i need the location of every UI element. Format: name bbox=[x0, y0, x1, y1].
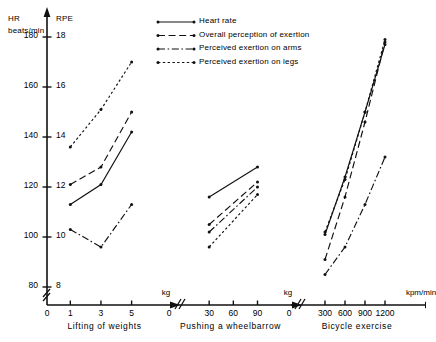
legend-marker-start-legs bbox=[157, 61, 160, 64]
legend-label-hr: Heart rate bbox=[199, 16, 237, 25]
series-line-p1-long-dash bbox=[209, 182, 257, 225]
x-tick-label-2-300: 300 bbox=[318, 308, 332, 318]
x-tick-label-1-60: 60 bbox=[229, 308, 238, 318]
data-point-p0-dotted-1 bbox=[99, 108, 102, 111]
data-point-p1-dash-dot-0 bbox=[208, 231, 211, 234]
y-tick-label-hr-120: 120 bbox=[24, 180, 38, 190]
y-tick-label-rpe-8: 8 bbox=[56, 280, 61, 290]
panel-caption-2: Bicycle exercise bbox=[322, 321, 393, 331]
series-line-p0-dotted bbox=[70, 62, 131, 147]
data-point-p2-dotted-0 bbox=[324, 231, 327, 234]
x-tick-label-2-900: 900 bbox=[358, 308, 372, 318]
data-point-p2-dash-dot-0 bbox=[324, 273, 327, 276]
x-tick-label-0-5: 5 bbox=[129, 308, 134, 318]
data-point-p1-solid-0 bbox=[208, 196, 211, 199]
data-point-p0-solid-0 bbox=[69, 203, 72, 206]
y-axis-title-rpe: RPE bbox=[56, 14, 73, 23]
data-point-p1-solid-1 bbox=[256, 166, 259, 169]
series-line-p2-dash-dot bbox=[325, 157, 385, 275]
y-tick-label-hr-140: 140 bbox=[24, 130, 38, 140]
y-tick-label-hr-160: 160 bbox=[24, 80, 38, 90]
data-point-p2-dash-dot-2 bbox=[364, 203, 367, 206]
data-point-p0-dash-dot-2 bbox=[130, 203, 133, 206]
data-point-p2-long-dash-0 bbox=[324, 258, 327, 261]
data-point-p2-dotted-2 bbox=[364, 111, 367, 114]
series-line-p1-dash-dot bbox=[209, 187, 257, 232]
series-line-p1-solid bbox=[209, 167, 257, 197]
data-point-p1-long-dash-1 bbox=[256, 181, 259, 184]
legend-marker-end-overall bbox=[193, 34, 196, 37]
data-point-p2-dotted-1 bbox=[344, 178, 347, 181]
legend-label-legs: Perceived exertion on legs bbox=[199, 57, 298, 66]
data-point-p2-dotted-3 bbox=[384, 38, 387, 41]
data-point-p2-dash-dot-3 bbox=[384, 156, 387, 159]
data-point-p0-long-dash-2 bbox=[130, 111, 133, 114]
x-tick-label-0-1: 1 bbox=[68, 308, 73, 318]
y-tick-label-rpe-18: 18 bbox=[56, 30, 65, 40]
legend-label-overall: Overall perception of exertion bbox=[199, 30, 310, 39]
y-tick-label-rpe-10: 10 bbox=[56, 230, 65, 240]
data-point-p1-dash-dot-1 bbox=[256, 186, 259, 189]
data-point-p2-long-dash-1 bbox=[344, 196, 347, 199]
series-line-p2-solid bbox=[325, 45, 385, 235]
data-point-p0-long-dash-1 bbox=[99, 166, 102, 169]
x-tick-label-2-0: 0 bbox=[287, 308, 292, 318]
legend-marker-start-arms bbox=[157, 48, 160, 51]
x-axis-unit-0: kg bbox=[162, 288, 170, 297]
y-tick-label-rpe-16: 16 bbox=[56, 80, 65, 90]
data-point-p2-long-dash-2 bbox=[364, 121, 367, 124]
legend-marker-end-hr bbox=[193, 21, 196, 24]
series-line-p1-dotted bbox=[209, 195, 257, 248]
x-tick-label-0-0: 0 bbox=[45, 308, 50, 318]
y-axis-arrow bbox=[44, 7, 51, 17]
x-tick-label-1-0: 0 bbox=[167, 308, 172, 318]
data-point-p0-solid-2 bbox=[130, 131, 133, 134]
x-tick-label-2-1200: 1200 bbox=[376, 308, 395, 318]
legend-label-arms: Perceived exertion on arms bbox=[199, 43, 302, 52]
series-line-p2-dotted bbox=[325, 40, 385, 233]
data-point-p0-dash-dot-1 bbox=[99, 246, 102, 249]
data-point-p1-long-dash-0 bbox=[208, 223, 211, 226]
data-point-p0-solid-1 bbox=[99, 183, 102, 186]
panel-caption-1: Pushing a wheelbarrow bbox=[180, 321, 281, 331]
data-point-p0-long-dash-0 bbox=[69, 183, 72, 186]
y-tick-label-hr-80: 80 bbox=[29, 280, 38, 290]
y-axis-title-hr-line2: beats/min bbox=[8, 26, 44, 35]
data-point-p1-dotted-1 bbox=[256, 193, 259, 196]
x-axis-unit-1: kg bbox=[284, 288, 292, 297]
legend-marker-start-overall bbox=[157, 34, 160, 37]
data-point-p1-dotted-0 bbox=[208, 246, 211, 249]
data-point-p0-dotted-2 bbox=[130, 61, 133, 64]
y-tick-label-rpe-12: 12 bbox=[56, 180, 65, 190]
y-tick-label-rpe-14: 14 bbox=[56, 130, 65, 140]
legend-marker-start-hr bbox=[157, 21, 160, 24]
x-tick-label-0-3: 3 bbox=[99, 308, 104, 318]
series-line-p0-dash-dot bbox=[70, 205, 131, 248]
x-tick-label-1-90: 90 bbox=[253, 308, 262, 318]
legend-marker-end-legs bbox=[193, 61, 196, 64]
y-axis-title-hr-line1: HR bbox=[8, 14, 20, 23]
x-tick-label-2-600: 600 bbox=[338, 308, 352, 318]
legend-marker-end-arms bbox=[193, 48, 196, 51]
panel-caption-0: Lifting of weights bbox=[67, 321, 141, 331]
y-tick-label-hr-100: 100 bbox=[24, 230, 38, 240]
data-point-p0-dash-dot-0 bbox=[69, 228, 72, 231]
data-point-p0-dotted-0 bbox=[69, 146, 72, 149]
x-tick-label-1-30: 30 bbox=[204, 308, 213, 318]
x-axis-unit-2: kpm/min bbox=[406, 288, 436, 297]
x-axis-arrow-2 bbox=[425, 302, 426, 309]
data-point-p2-dash-dot-1 bbox=[344, 246, 347, 249]
